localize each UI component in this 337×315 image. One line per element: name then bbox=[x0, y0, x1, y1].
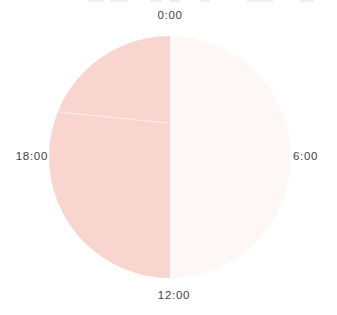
tick-label-1200: 12:00 bbox=[4, 289, 337, 302]
cropped-text-artifact bbox=[88, 0, 104, 2]
tick-label-1800: 18:00 bbox=[0, 150, 48, 163]
tick-label-0600: 6:00 bbox=[293, 150, 318, 163]
slice-morning-half bbox=[170, 36, 291, 278]
clock-chart: 0:00 6:00 12:00 18:00 bbox=[0, 0, 337, 315]
cropped-text-artifact bbox=[200, 0, 210, 2]
slice-evening-half bbox=[49, 36, 170, 278]
cropped-text-artifact bbox=[247, 0, 273, 2]
tick-label-0000: 0:00 bbox=[0, 9, 337, 22]
cropped-text-artifact bbox=[300, 0, 314, 2]
polar-clock-svg bbox=[0, 0, 337, 315]
cropped-text-artifact bbox=[110, 0, 128, 2]
cropped-text-artifact bbox=[170, 0, 180, 2]
cropped-text-artifact bbox=[150, 0, 162, 2]
